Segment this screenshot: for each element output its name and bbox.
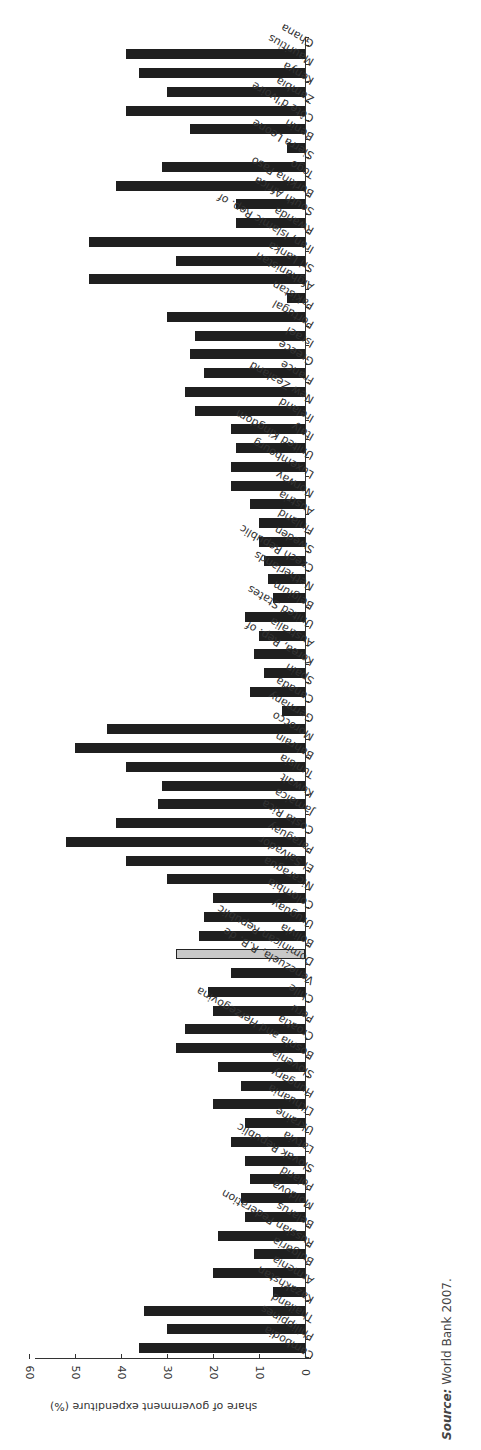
value-tick-label: 30 [161,1363,174,1383]
value-tick-label: 40 [115,1363,128,1383]
source-text: World Bank 2007. [440,1278,454,1388]
value-tick-label: 0 [299,1363,312,1383]
value-tick-label: 60 [23,1363,36,1383]
value-tick-label: 50 [69,1363,82,1383]
value-tick [121,1354,122,1359]
category-label: Chile [286,981,316,1006]
value-tick [29,1354,30,1359]
source-prefix: Source: [440,1389,454,1440]
bar-chart: 0102030405060 CambodiaPhilippinesThailan… [0,0,481,1450]
value-tick [167,1354,168,1359]
bar [75,743,305,753]
category-tick [305,37,309,38]
bar [126,49,305,59]
value-tick-label: 20 [207,1363,220,1383]
bar [107,724,305,734]
value-tick [259,1354,260,1359]
value-tick-label: 10 [253,1363,266,1383]
value-tick [75,1354,76,1359]
value-axis-line [35,1358,311,1359]
value-tick [213,1354,214,1359]
y-axis-title: share of government expenditure (%) [50,1400,257,1413]
source-note: Source: World Bank 2007. [440,1278,454,1440]
